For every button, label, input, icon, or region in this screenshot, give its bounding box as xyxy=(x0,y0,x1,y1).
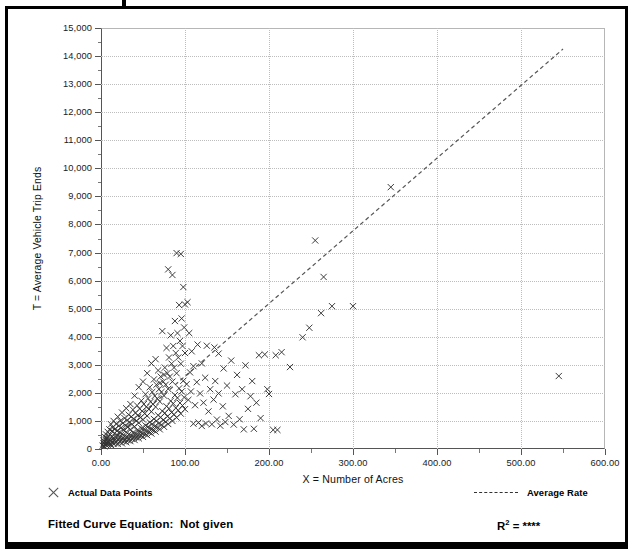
y-axis-tick-label: 12,000 xyxy=(63,107,92,117)
legend-label-average-rate: Average Rate xyxy=(527,487,588,498)
fitted-curve-value: Not given xyxy=(180,518,233,530)
legend-item-data-points: Actual Data Points xyxy=(48,487,153,498)
r2-label: R xyxy=(497,520,505,532)
r-squared-value: R2 = **** xyxy=(497,518,540,532)
fitted-curve-equation: Fitted Curve Equation: Not given xyxy=(48,518,233,530)
x-axis-tick-label: 0.00 xyxy=(92,458,111,468)
bottom-edge-bar xyxy=(5,545,628,549)
x-axis-title: X = Number of Acres xyxy=(101,473,605,485)
x-axis-tick xyxy=(605,449,606,455)
fitted-curve-label: Fitted Curve Equation: xyxy=(48,518,173,530)
y-axis-tick-label: 13,000 xyxy=(63,79,92,89)
y-axis-tick-label: 5,000 xyxy=(68,304,92,314)
dashed-line-icon xyxy=(474,492,518,493)
x-axis-tick-label: 400.00 xyxy=(422,458,451,468)
x-axis-minor-tick xyxy=(311,449,312,453)
x-axis-minor-tick xyxy=(479,449,480,453)
x-marker-icon xyxy=(48,487,59,498)
y-axis-tick-label: 2,000 xyxy=(68,388,92,398)
y-axis-tick-label: 3,000 xyxy=(68,360,92,370)
x-axis-tick xyxy=(521,449,522,455)
y-axis-tick-label: 7,000 xyxy=(68,248,92,258)
y-axis-tick-label: 0 xyxy=(87,444,92,454)
x-axis-tick xyxy=(185,449,186,455)
y-axis-title: T = Average Vehicle Trip Ends xyxy=(30,28,46,449)
top-edge-mark xyxy=(122,0,126,6)
y-axis-tick-label: 14,000 xyxy=(63,51,92,61)
r2-equals: = xyxy=(509,520,522,532)
x-axis-tick xyxy=(353,449,354,455)
x-axis-tick-label: 600.00 xyxy=(590,458,619,468)
scatter-points xyxy=(101,28,605,449)
x-axis-tick xyxy=(269,449,270,455)
y-axis-tick-label: 1,000 xyxy=(68,416,92,426)
y-axis-tick-label: 4,000 xyxy=(68,332,92,342)
x-axis-minor-tick xyxy=(395,449,396,453)
chart-legend: Actual Data Points Average Rate xyxy=(0,487,633,507)
y-axis-tick-label: 8,000 xyxy=(68,219,92,229)
x-axis-tick-label: 300.00 xyxy=(338,458,367,468)
x-axis-tick xyxy=(101,449,102,455)
r2-stars: **** xyxy=(522,520,540,532)
y-axis-tick-label: 9,000 xyxy=(68,191,92,201)
x-axis-minor-tick xyxy=(227,449,228,453)
x-axis-minor-tick xyxy=(143,449,144,453)
y-axis-tick-label: 6,000 xyxy=(68,276,92,286)
x-axis-tick-label: 500.00 xyxy=(506,458,535,468)
plot-area: 01,0002,0003,0004,0005,0006,0007,0008,00… xyxy=(101,28,605,449)
legend-item-average-rate: Average Rate xyxy=(474,487,588,498)
x-axis-tick-label: 200.00 xyxy=(254,458,283,468)
y-axis-tick-label: 10,000 xyxy=(63,163,92,173)
y-axis-tick-label: 11,000 xyxy=(64,135,92,145)
legend-label-data-points: Actual Data Points xyxy=(68,487,153,498)
x-axis-tick-label: 100.00 xyxy=(170,458,199,468)
x-axis-tick xyxy=(437,449,438,455)
chart-page: { "chart_data": { "type": "scatter", "ti… xyxy=(0,0,633,551)
y-axis-tick-label: 15,000 xyxy=(63,23,92,33)
series-actual-data-points xyxy=(100,184,562,449)
x-axis-minor-tick xyxy=(563,449,564,453)
y-axis-title-text: T = Average Vehicle Trip Ends xyxy=(33,167,44,310)
chart-footer: Fitted Curve Equation: Not given R2 = **… xyxy=(0,518,633,540)
